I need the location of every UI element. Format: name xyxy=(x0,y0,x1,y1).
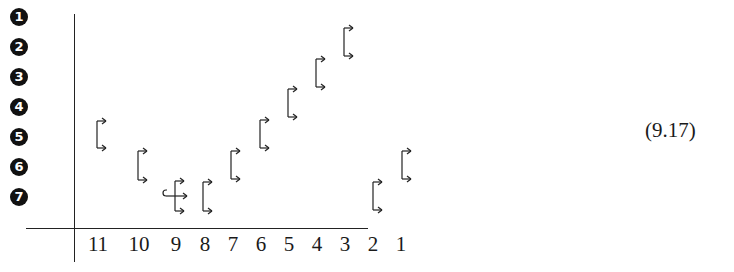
equation-number: (9.17) xyxy=(645,118,696,143)
bracket-arrows-diagram xyxy=(0,0,734,272)
